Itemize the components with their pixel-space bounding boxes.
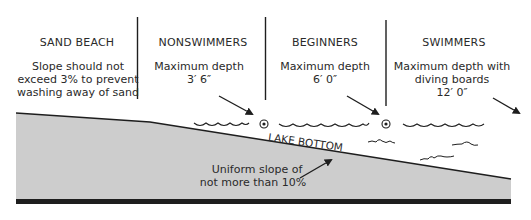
wave-icon (403, 124, 484, 127)
desc-line: washing away of sand (17, 86, 139, 99)
zone-desc-nonswimmers: Maximum depth 3′ 6″ (154, 60, 244, 86)
arrow-icon (219, 96, 252, 114)
desc-depth: 3′ 6″ (187, 73, 211, 86)
arrow-icon (347, 96, 378, 114)
buoy-icon (260, 120, 268, 128)
buoy-icon (382, 120, 390, 128)
zone-heading-swimmers: SWIMMERS (422, 36, 485, 49)
wave-icon (279, 123, 369, 127)
zone-desc-beginners: Maximum depth 6′ 0″ (280, 60, 370, 86)
wave-icon (368, 140, 478, 160)
zone-heading-sand-beach: SAND BEACH (40, 36, 115, 49)
base-line (16, 199, 511, 204)
desc-line: Maximum depth with (394, 60, 511, 73)
zone-heading-beginners: BEGINNERS (292, 36, 358, 49)
zone-desc-swimmers: Maximum depth with diving boards 12′ 0″ (394, 60, 511, 99)
desc-line: Maximum depth (154, 60, 244, 73)
wave-icon (194, 123, 249, 126)
swimming-area-diagram: SAND BEACH NONSWIMMERS BEGINNERS SWIMMER… (0, 0, 531, 220)
arrow-icon (493, 98, 519, 113)
zone-heading-nonswimmers: NONSWIMMERS (159, 36, 248, 49)
zone-desc-sand-beach: Slope should not exceed 3% to prevent wa… (17, 60, 139, 99)
desc-depth: 12′ 0″ (436, 86, 467, 99)
desc-line: Maximum depth (280, 60, 370, 73)
desc-line: exceed 3% to prevent (17, 73, 139, 86)
desc-line: diving boards (415, 73, 490, 86)
desc-line: Slope should not (32, 60, 125, 73)
slope-note-line-1: Uniform slope of (212, 163, 304, 176)
slope-note-line-2: not more than 10% (200, 176, 306, 189)
desc-depth: 6′ 0″ (313, 73, 337, 86)
